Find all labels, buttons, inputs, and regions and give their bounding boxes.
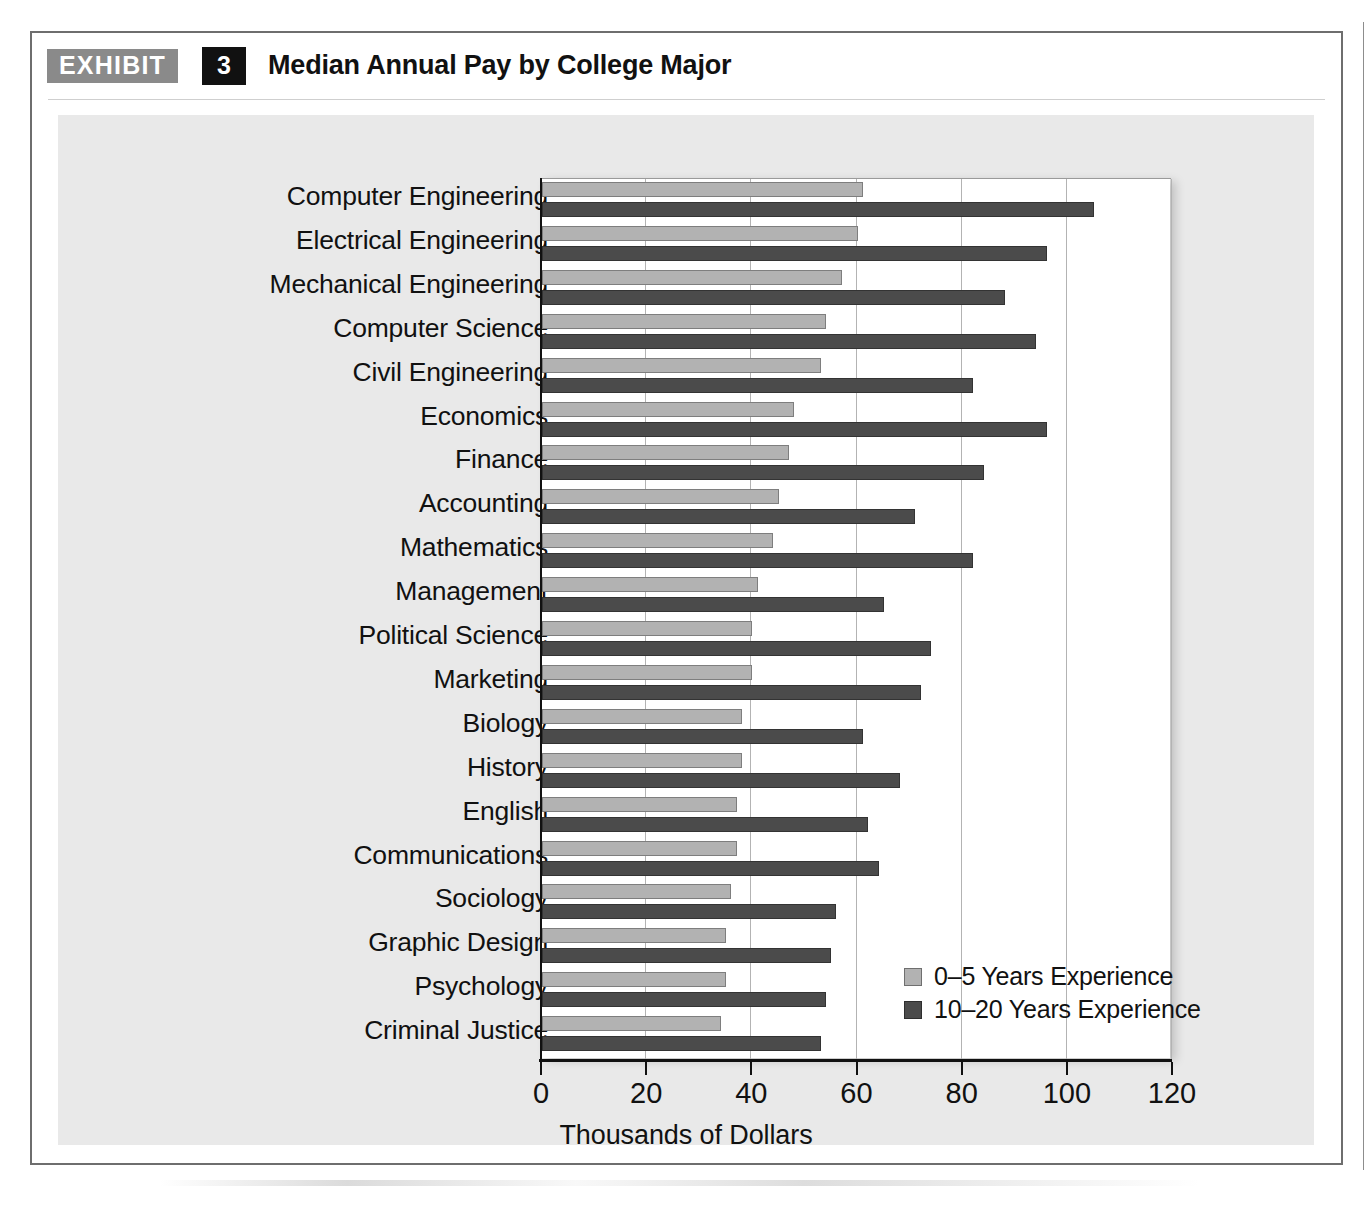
x-axis-tick-label: 100 xyxy=(1043,1077,1091,1110)
category-label: Sociology xyxy=(435,883,548,914)
bar-light xyxy=(542,445,789,460)
x-axis-tick-label: 120 xyxy=(1148,1077,1196,1110)
category-label: Graphic Design xyxy=(368,927,548,958)
bar-light xyxy=(542,182,863,197)
bar-light xyxy=(542,402,794,417)
exhibit-header: EXHIBIT 3 Median Annual Pay by College M… xyxy=(32,33,1341,98)
chart-category-row: Economics xyxy=(58,400,1314,444)
chart-category-row: Biology xyxy=(58,707,1314,751)
exhibit-badge: EXHIBIT xyxy=(47,49,178,83)
legend-swatch-light-icon xyxy=(904,968,922,986)
x-axis-tick-label: 0 xyxy=(533,1077,549,1110)
bar-dark xyxy=(542,597,884,612)
category-label: Mechanical Engineering xyxy=(270,269,548,300)
category-label: Communications xyxy=(353,840,548,871)
chart-category-row: Political Science xyxy=(58,619,1314,663)
bar-dark xyxy=(542,422,1047,437)
chart-category-row: Communications xyxy=(58,839,1314,883)
x-axis-tick-label: 20 xyxy=(630,1077,662,1110)
x-axis-tick xyxy=(1066,1062,1068,1075)
page-gutter-rule xyxy=(1363,22,1364,1170)
bar-light xyxy=(542,270,842,285)
chart-category-row: Computer Engineering xyxy=(58,180,1314,224)
bar-light xyxy=(542,621,752,636)
bar-light xyxy=(542,1016,721,1031)
header-divider xyxy=(48,99,1325,100)
category-label: Marketing xyxy=(433,664,548,695)
bar-dark xyxy=(542,553,973,568)
chart-category-row: Accounting xyxy=(58,487,1314,531)
bar-dark xyxy=(542,1036,821,1051)
legend-item: 10–20 Years Experience xyxy=(904,993,1201,1026)
category-label: Civil Engineering xyxy=(353,357,548,388)
bar-light xyxy=(542,577,758,592)
category-label: Management xyxy=(395,576,548,607)
chart-category-row: Management xyxy=(58,575,1314,619)
bar-light xyxy=(542,709,742,724)
x-axis-tick xyxy=(856,1062,858,1075)
bar-light xyxy=(542,533,773,548)
chart-category-row: Computer Science xyxy=(58,312,1314,356)
category-label: Political Science xyxy=(358,620,548,651)
legend-item: 0–5 Years Experience xyxy=(904,960,1201,993)
bar-light xyxy=(542,314,826,329)
chart-category-row: Sociology xyxy=(58,882,1314,926)
x-axis-tick-label: 80 xyxy=(946,1077,978,1110)
category-label: Computer Science xyxy=(333,313,548,344)
category-label: Psychology xyxy=(414,971,548,1002)
bar-light xyxy=(542,489,779,504)
chart-category-row: Mathematics xyxy=(58,531,1314,575)
exhibit-container: EXHIBIT 3 Median Annual Pay by College M… xyxy=(30,31,1343,1165)
bar-dark xyxy=(542,685,921,700)
category-label: Biology xyxy=(462,708,548,739)
x-axis-tick xyxy=(961,1062,963,1075)
bar-dark xyxy=(542,729,863,744)
exhibit-title: Median Annual Pay by College Major xyxy=(268,50,731,81)
bar-dark xyxy=(542,246,1047,261)
chart-category-row: Electrical Engineering xyxy=(58,224,1314,268)
category-label: Accounting xyxy=(419,488,548,519)
bar-dark xyxy=(542,202,1094,217)
bar-dark xyxy=(542,948,831,963)
chart-category-row: Finance xyxy=(58,443,1314,487)
x-axis-tick xyxy=(1171,1062,1173,1075)
bar-dark xyxy=(542,465,984,480)
chart-category-row: English xyxy=(58,795,1314,839)
chart-legend: 0–5 Years Experience 10–20 Years Experie… xyxy=(904,960,1201,1026)
chart-category-row: Marketing xyxy=(58,663,1314,707)
bar-dark xyxy=(542,904,836,919)
bar-dark xyxy=(542,861,879,876)
exhibit-number-badge: 3 xyxy=(202,47,246,85)
chart-category-row: Civil Engineering xyxy=(58,356,1314,400)
bar-dark xyxy=(542,641,931,656)
category-label: Economics xyxy=(420,401,548,432)
bar-light xyxy=(542,753,742,768)
bar-light xyxy=(542,226,858,241)
chart-category-row: Mechanical Engineering xyxy=(58,268,1314,312)
x-axis-tick xyxy=(540,1062,542,1075)
chart-category-row: History xyxy=(58,751,1314,795)
category-label: Electrical Engineering xyxy=(296,225,548,256)
category-label: History xyxy=(467,752,548,783)
bar-dark xyxy=(542,992,826,1007)
category-label: Computer Engineering xyxy=(287,181,548,212)
bar-light xyxy=(542,665,752,680)
bar-dark xyxy=(542,334,1036,349)
bar-light xyxy=(542,841,737,856)
chart-panel: 020406080100120 Computer EngineeringElec… xyxy=(58,115,1314,1145)
x-axis-tick xyxy=(645,1062,647,1075)
legend-swatch-dark-icon xyxy=(904,1001,922,1019)
category-label: Finance xyxy=(455,444,548,475)
x-axis-tick xyxy=(750,1062,752,1075)
bar-light xyxy=(542,972,726,987)
x-axis-tick-label: 60 xyxy=(840,1077,872,1110)
bar-light xyxy=(542,797,737,812)
bar-dark xyxy=(542,290,1005,305)
bar-light xyxy=(542,884,731,899)
bar-light xyxy=(542,928,726,943)
legend-label: 0–5 Years Experience xyxy=(934,962,1173,991)
bar-dark xyxy=(542,509,915,524)
bar-dark xyxy=(542,817,868,832)
x-axis-title: Thousands of Dollars xyxy=(58,1120,1314,1151)
x-axis-tick-label: 40 xyxy=(735,1077,767,1110)
